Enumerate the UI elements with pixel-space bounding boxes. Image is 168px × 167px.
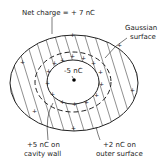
- cavity-label-1: +5 nC on: [27, 141, 60, 149]
- svg-text:+: +: [91, 59, 96, 66]
- svg-text:+: +: [98, 68, 103, 75]
- svg-text:+: +: [32, 107, 37, 114]
- svg-text:+: +: [45, 79, 50, 86]
- conductor-diagram: +++ +++ +++ +++ ++ +++ +++ -5 nC Net cha…: [0, 0, 168, 167]
- svg-text:+: +: [99, 80, 104, 87]
- svg-text:+: +: [130, 86, 135, 93]
- outer-label-1: +2 nC on: [103, 141, 136, 149]
- svg-text:+: +: [60, 56, 65, 63]
- svg-text:+: +: [60, 98, 65, 105]
- net-charge-label: Net charge = + 7 nC: [22, 9, 95, 17]
- svg-text:+: +: [81, 54, 86, 61]
- svg-text:+: +: [52, 59, 57, 66]
- svg-text:+: +: [70, 31, 75, 38]
- point-charge: [72, 78, 76, 82]
- svg-text:+: +: [50, 90, 55, 97]
- svg-text:+: +: [94, 91, 99, 98]
- svg-text:+: +: [70, 52, 75, 59]
- cavity-label-2: cavity wall: [24, 150, 61, 158]
- gaussian-label-2: surface: [130, 33, 156, 41]
- outer-label-2: outer surface: [96, 150, 143, 158]
- svg-text:+: +: [84, 98, 89, 105]
- svg-text:+: +: [20, 58, 25, 65]
- gaussian-label-1: Gaussian: [125, 24, 157, 32]
- svg-text:+: +: [46, 67, 51, 74]
- svg-text:+: +: [72, 100, 77, 107]
- svg-text:+: +: [71, 124, 76, 131]
- point-charge-label: -5 nC: [64, 67, 83, 75]
